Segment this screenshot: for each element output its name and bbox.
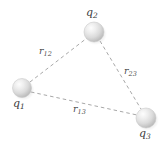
charge-sphere-q2 (84, 22, 107, 45)
charge-spheres (13, 22, 160, 131)
separation-line-r12 (30, 38, 87, 82)
diagram-canvas (0, 0, 166, 142)
charge-sphere-q1 (13, 79, 35, 101)
separation-lines (30, 38, 141, 115)
charge-triangle-diagram: q1 q2 q3 r12 r23 r13 (0, 0, 166, 142)
separation-line-r23 (100, 41, 141, 109)
charge-sphere-q3 (136, 108, 159, 131)
separation-line-r13 (31, 92, 137, 115)
